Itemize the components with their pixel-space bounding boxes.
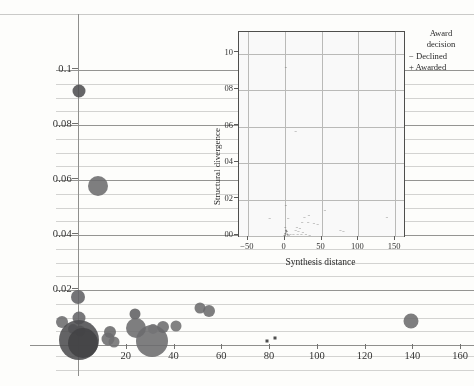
inset-y-tick-10: 10 bbox=[197, 47, 233, 57]
gridline-minor bbox=[56, 370, 474, 371]
main-x-tick-80: 80 bbox=[249, 350, 289, 361]
inset-x-axis-label: Synthesis distance bbox=[238, 257, 403, 267]
inset-x-tick-150: 150 bbox=[377, 241, 411, 251]
bubble-point bbox=[73, 84, 86, 97]
inset-gridline-v bbox=[248, 32, 249, 236]
inset-point-declined: − bbox=[308, 213, 311, 218]
gridline-minor bbox=[56, 304, 474, 305]
inset-point-declined: − bbox=[342, 230, 345, 235]
legend-title-line1: Award bbox=[408, 28, 474, 39]
inset-point-declined: − bbox=[305, 233, 308, 238]
inset-point-declined: − bbox=[297, 233, 300, 238]
inset-y-tick-00: 00 bbox=[197, 229, 233, 239]
main-x-tick-160: 160 bbox=[440, 350, 474, 361]
inset-point-declined: − bbox=[307, 221, 310, 226]
main-y-tick-0.08: 0.08 bbox=[26, 118, 72, 129]
inset-y-axis-label: Structural divergence bbox=[212, 128, 222, 205]
inset-x-tick-−50: −50 bbox=[230, 241, 264, 251]
inset-gridline-v bbox=[358, 32, 359, 236]
main-x-tick-120: 120 bbox=[345, 350, 385, 361]
bubble-point bbox=[71, 290, 85, 304]
gridline-major bbox=[56, 290, 474, 291]
inset-point-declined: − bbox=[285, 66, 288, 71]
inset-point-declined: − bbox=[294, 129, 297, 134]
main-y-tick-0.06: 0.06 bbox=[26, 173, 72, 184]
bubble-point bbox=[170, 321, 181, 332]
bubble-point bbox=[108, 337, 119, 348]
gridline-minor bbox=[56, 276, 474, 277]
main-x-tick-100: 100 bbox=[297, 350, 337, 361]
legend-title-line2: decision bbox=[408, 39, 474, 50]
inset-point-declined: − bbox=[287, 217, 290, 222]
small-marker bbox=[273, 337, 276, 340]
gridline-minor bbox=[56, 331, 474, 332]
gridline-minor bbox=[56, 249, 474, 250]
inset-point-declined: − bbox=[313, 222, 316, 227]
main-y-tick-0.02: 0.02 bbox=[26, 283, 72, 294]
small-marker bbox=[265, 340, 268, 343]
bubble-point bbox=[68, 328, 98, 358]
inset-point-declined: − bbox=[301, 220, 304, 225]
inset-point-declined: − bbox=[285, 204, 288, 209]
main-y-tick-0.04: 0.04 bbox=[26, 228, 72, 239]
inset-y-tick-08: 08 bbox=[197, 83, 233, 93]
main-y-tick-0.1: 0.1 bbox=[26, 63, 72, 74]
inset-x-tick-0: 0 bbox=[267, 241, 301, 251]
bubble-point bbox=[203, 305, 215, 317]
inset-x-tick-100: 100 bbox=[340, 241, 374, 251]
inset-point-declined: − bbox=[324, 209, 327, 214]
bubble-point bbox=[157, 321, 169, 333]
main-x-tick-140: 140 bbox=[392, 350, 432, 361]
inset-point-declined: − bbox=[308, 233, 311, 238]
inset-point-declined: − bbox=[316, 222, 319, 227]
legend-entry-awarded[interactable]: + Awarded bbox=[408, 62, 474, 73]
inset-gridline-v bbox=[322, 32, 323, 236]
inset-scatter-plot: −−−−−−−−−−−−−−−−++−−−−−++−−−−−+−− bbox=[238, 31, 405, 237]
inset-point-declined: − bbox=[386, 216, 389, 221]
legend-entry-declined[interactable]: − Declined bbox=[408, 51, 474, 62]
inset-point-declined: − bbox=[269, 217, 272, 222]
figure-canvas: 0.020.040.060.080.1 20406080100120140160… bbox=[0, 0, 474, 386]
inset-x-tick-50: 50 bbox=[304, 241, 338, 251]
bubble-point bbox=[404, 313, 419, 328]
bubble-point bbox=[88, 176, 108, 196]
legend: Award decision − Declined + Awarded bbox=[408, 28, 474, 74]
inset-point-declined: − bbox=[292, 233, 295, 238]
inset-gridline-v bbox=[395, 32, 396, 236]
inset-point-declined: − bbox=[300, 233, 303, 238]
inset-point-declined: − bbox=[288, 233, 291, 238]
main-x-tick-60: 60 bbox=[201, 350, 241, 361]
inset-gridline-h bbox=[239, 236, 404, 237]
